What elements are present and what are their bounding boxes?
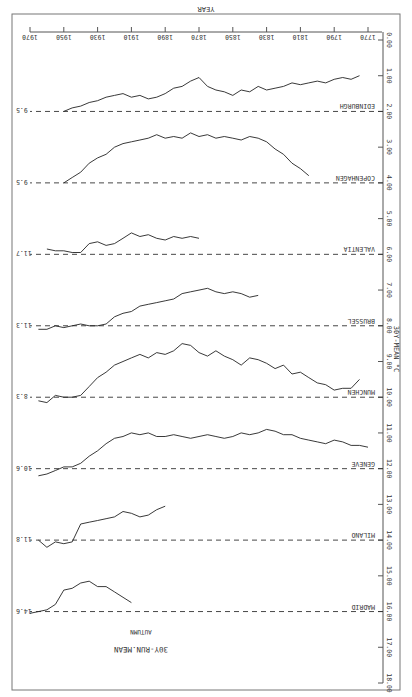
station-name-label: BRUSSEL bbox=[348, 317, 375, 325]
year-tick-label: 1790 bbox=[326, 33, 342, 41]
temperature-curve bbox=[64, 133, 309, 183]
value-tick-label: 14.00 bbox=[385, 530, 393, 550]
station-copenhagen: COPENHAGEN9.5 bbox=[16, 133, 383, 186]
value-tick-label: 7.00 bbox=[385, 282, 393, 298]
station-name-label: VALENTIA bbox=[344, 245, 375, 253]
station-name-label: MUNCHEN bbox=[348, 388, 375, 396]
station-baseline-value: 11.8 bbox=[16, 535, 32, 543]
temperature-axis: 0.001.002.003.004.005.006.007.008.009.00… bbox=[378, 32, 393, 693]
x-axis-label: YEAR bbox=[197, 5, 215, 13]
station-milano: MILANO11.8 bbox=[16, 506, 383, 547]
station-name-label: EDINBURGH bbox=[340, 102, 375, 110]
year-tick-label: 1770 bbox=[360, 33, 376, 41]
value-tick-label: 1.00 bbox=[385, 68, 393, 84]
value-tick-label: 16.00 bbox=[385, 602, 393, 622]
value-tick-label: 12.00 bbox=[385, 459, 393, 479]
value-tick-label: 18.00 bbox=[385, 673, 393, 693]
value-tick-label: 2.00 bbox=[385, 104, 393, 120]
station-munchen: MUNCHEN8.3 bbox=[16, 344, 383, 403]
value-tick-label: 17.00 bbox=[385, 637, 393, 657]
station-baseline-value: 14.6 bbox=[16, 607, 32, 615]
station-baseline-value: 8.3 bbox=[16, 392, 28, 400]
value-tick-label: 10.00 bbox=[385, 387, 393, 407]
year-tick-label: 1870 bbox=[191, 33, 207, 41]
station-baseline-value: 9.5 bbox=[16, 106, 28, 114]
chart-subtitle: AUTUMN bbox=[130, 629, 152, 636]
station-madrid: MADRID14.6 bbox=[16, 581, 383, 614]
value-tick-label: 6.00 bbox=[385, 247, 393, 263]
value-tick-label: 15.00 bbox=[385, 566, 393, 586]
station-valentia: VALENTIA11.7 bbox=[16, 233, 383, 257]
year-tick-label: 1910 bbox=[123, 33, 139, 41]
station-baseline-value: 9.5 bbox=[16, 178, 28, 186]
chart-figure: 1770179018101830185018701890191019301950… bbox=[0, 0, 412, 697]
year-tick-label: 1810 bbox=[292, 33, 308, 41]
station-edinburgh: EDINBURGH9.5 bbox=[16, 76, 383, 115]
temperature-curve bbox=[64, 76, 360, 112]
station-baseline-value: 11.3 bbox=[16, 321, 32, 329]
value-tick-label: 11.00 bbox=[385, 423, 393, 443]
value-tick-label: 5.00 bbox=[385, 211, 393, 227]
temperature-curve bbox=[30, 581, 131, 613]
year-tick-label: 1930 bbox=[90, 33, 106, 41]
station-series: EDINBURGH9.5COPENHAGEN9.5VALENTIA11.7BRU… bbox=[16, 76, 383, 615]
temperature-curve bbox=[38, 288, 258, 329]
year-tick-label: 1970 bbox=[22, 33, 38, 41]
value-tick-label: 8.00 bbox=[385, 318, 393, 334]
year-axis: 1770179018101830185018701890191019301950… bbox=[22, 27, 382, 41]
year-tick-label: 1890 bbox=[157, 33, 173, 41]
station-brussel: BRUSSEL11.3 bbox=[16, 288, 383, 329]
station-name-label: MILANO bbox=[351, 531, 375, 539]
chart-title: 30Y-RUN.MEAN bbox=[114, 645, 168, 654]
station-name-label: COPENHAGEN bbox=[336, 174, 375, 182]
temperature-curve bbox=[47, 233, 199, 253]
station-name-label: GENEVE bbox=[351, 460, 375, 468]
temperature-curve bbox=[38, 344, 359, 403]
y-axis-label: 30Y-MEAN °C bbox=[392, 326, 400, 372]
value-tick-label: 9.00 bbox=[385, 354, 393, 370]
year-tick-label: 1830 bbox=[259, 33, 275, 41]
temperature-running-mean-chart: 1770179018101830185018701890191019301950… bbox=[0, 0, 412, 697]
value-tick-label: 4.00 bbox=[385, 175, 393, 191]
value-tick-label: 3.00 bbox=[385, 139, 393, 155]
year-tick-label: 1950 bbox=[56, 33, 72, 41]
station-name-label: MADRID bbox=[351, 603, 375, 611]
temperature-curve bbox=[38, 506, 165, 547]
value-tick-label: 13.00 bbox=[385, 495, 393, 515]
station-geneve: GENEVE10.6 bbox=[16, 429, 383, 475]
year-tick-label: 1850 bbox=[225, 33, 241, 41]
station-baseline-value: 11.7 bbox=[16, 249, 32, 257]
value-tick-label: 0.00 bbox=[385, 32, 393, 48]
station-baseline-value: 10.6 bbox=[16, 464, 32, 472]
